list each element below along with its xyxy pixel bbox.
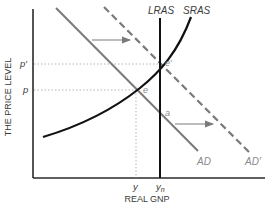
price-tick-p-prime: p′ [19, 58, 28, 69]
x-axis-title: REAL GNP [124, 194, 169, 204]
point-e: e [143, 85, 148, 95]
yn-subscript: n [161, 186, 165, 193]
sras-label: SRAS [183, 5, 211, 16]
lras-label: LRAS [148, 5, 174, 16]
ad-label: AD [196, 156, 211, 167]
output-tick-y: y [132, 181, 139, 192]
ad-as-diagram: LRAS SRAS AD AD′ e′ e a p′ p y yn REAL G… [0, 0, 267, 206]
sras-curve [43, 17, 191, 137]
y-axis-title: THE PRICE LEVEL [3, 58, 13, 137]
ad-prime-label: AD′ [244, 156, 262, 167]
price-tick-p: p [22, 84, 28, 95]
point-e-prime: e′ [165, 58, 172, 68]
point-a: a [165, 108, 170, 118]
output-tick-yn: yn [155, 181, 165, 193]
